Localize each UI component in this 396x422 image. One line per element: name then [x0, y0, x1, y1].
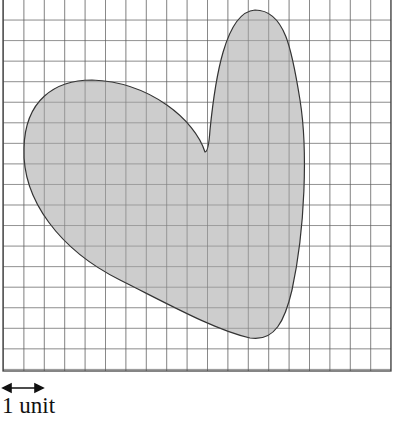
- scale-label: 1 unit: [2, 394, 55, 417]
- scale-arrow-icon: [3, 384, 43, 392]
- grid-figure: [0, 0, 396, 422]
